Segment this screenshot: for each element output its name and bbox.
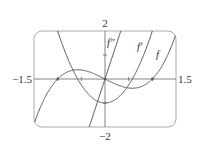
curve-label-f-double-prime: f″ [107,36,115,48]
y-min-label: −2 [99,130,111,142]
x-max-label: 1.5 [178,73,192,85]
curve-label-f: f [156,48,161,60]
y-max-label: 2 [102,17,108,29]
chart: 2 −2 −1.5 1.5 f″ f′ f [0,0,202,147]
x-min-label: −1.5 [12,73,32,85]
curve-label-f-prime: f′ [137,40,143,52]
